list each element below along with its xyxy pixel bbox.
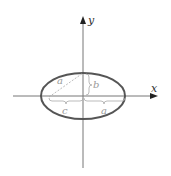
focus-to-vertex-line [49, 73, 83, 97]
a-brace [84, 98, 125, 104]
y-axis-label: y [87, 14, 95, 27]
ellipse-diagram: y x a b c a [0, 0, 171, 176]
y-axis-arrow-icon [80, 16, 86, 24]
hypotenuse-label: a [57, 75, 63, 86]
semi-major-label: a [101, 105, 107, 116]
x-axis-label: x [151, 82, 158, 95]
b-brace [86, 74, 92, 95]
semi-minor-label: b [93, 79, 99, 90]
focal-distance-label: c [62, 105, 68, 116]
c-brace [49, 98, 83, 104]
